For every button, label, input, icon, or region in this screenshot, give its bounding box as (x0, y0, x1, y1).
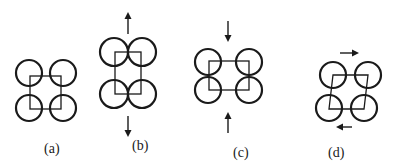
up-arrow-icon (225, 112, 232, 133)
panel-label-b: (b) (132, 138, 149, 154)
panel-b: (b) (100, 12, 156, 154)
left-arrow-icon (336, 124, 352, 131)
circle-top-left (16, 60, 42, 86)
right-arrow-icon (340, 50, 359, 57)
sheared-frame (329, 75, 368, 109)
circle-top-left (195, 49, 221, 75)
rectangle-frame (209, 61, 249, 90)
square-frame (30, 76, 61, 109)
panel-d: (d) (316, 50, 381, 162)
circle-top-right (50, 60, 76, 86)
down-arrow-icon (225, 21, 232, 42)
rectangle-frame (115, 52, 141, 94)
up-arrow-icon (125, 12, 132, 34)
circle-bottom-left (16, 95, 42, 121)
panel-label-a: (a) (44, 141, 60, 157)
down-arrow-icon (125, 116, 132, 137)
panel-label-c: (c) (233, 145, 249, 161)
deformation-diagram: (a) (b) (c) (0, 0, 396, 167)
circle-bottom-right (50, 95, 76, 121)
panel-c: (c) (195, 21, 262, 161)
panel-label-d: (d) (328, 145, 345, 161)
panel-a: (a) (16, 60, 76, 157)
